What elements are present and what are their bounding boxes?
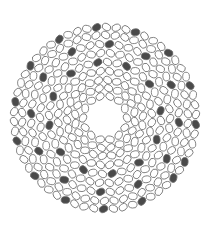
- strand-ellipse: [59, 53, 69, 61]
- strand-ellipse: [53, 108, 63, 119]
- strand-ellipse: [84, 176, 95, 187]
- strand-ellipse: [104, 178, 115, 188]
- strand-ellipse: [17, 107, 27, 118]
- dark-strand-ellipse: [66, 69, 76, 78]
- strand-ellipse: [101, 22, 112, 32]
- strand-ellipse: [114, 185, 125, 196]
- strand-ellipse: [189, 90, 197, 100]
- strand-ellipse: [99, 196, 110, 206]
- strand-ellipse: [148, 37, 158, 45]
- strand-ellipse: [160, 142, 167, 151]
- strand-ellipse: [94, 83, 105, 94]
- dark-strand-ellipse: [59, 176, 69, 184]
- strand-ellipse: [128, 192, 137, 200]
- strand-ellipse: [122, 113, 132, 124]
- strand-ellipse: [95, 135, 105, 143]
- strand-ellipse: [59, 75, 68, 85]
- strand-ellipse: [123, 144, 133, 153]
- strand-ellipse: [179, 137, 190, 148]
- strand-ellipse: [93, 75, 104, 86]
- strand-ellipse: [44, 110, 54, 121]
- strand-ellipse: [80, 194, 90, 202]
- strand-ellipse: [124, 184, 133, 192]
- strand-ellipse: [90, 30, 101, 40]
- strand-ellipse: [63, 188, 72, 195]
- strand-ellipse: [35, 112, 45, 123]
- strand-ellipse: [43, 141, 50, 150]
- dark-strand-ellipse: [29, 171, 40, 181]
- strand-ellipse: [124, 44, 134, 52]
- strand-ellipse: [190, 99, 201, 110]
- strand-ellipse: [77, 184, 87, 192]
- strand-ellipse: [102, 57, 113, 67]
- dark-strand-ellipse: [12, 135, 23, 146]
- strand-ellipse: [81, 33, 91, 41]
- strand-ellipse: [39, 46, 49, 57]
- strand-ellipse: [146, 193, 155, 201]
- strand-ellipse: [121, 104, 128, 113]
- strand-ellipse: [71, 109, 80, 119]
- dark-strand-ellipse: [163, 48, 174, 57]
- dark-strand-ellipse: [191, 119, 201, 130]
- strand-ellipse: [105, 135, 115, 143]
- strand-ellipse: [18, 154, 29, 165]
- strand-ellipse: [118, 194, 129, 205]
- strand-ellipse: [112, 78, 122, 86]
- strand-ellipse: [95, 66, 106, 76]
- strand-ellipse: [124, 175, 133, 182]
- dark-strand-ellipse: [141, 52, 151, 60]
- strand-ellipse: [85, 80, 94, 87]
- strand-ellipse: [112, 59, 122, 68]
- strand-ellipse: [124, 52, 135, 63]
- dark-strand-ellipse: [78, 164, 89, 175]
- strand-ellipse: [95, 48, 106, 58]
- strand-ellipse: [29, 154, 36, 163]
- dark-strand-ellipse: [45, 120, 54, 130]
- strand-ellipse: [37, 178, 46, 189]
- strand-ellipse: [168, 64, 176, 74]
- strand-ellipse: [52, 139, 59, 148]
- dark-strand-ellipse: [104, 39, 115, 49]
- strand-ellipse: [138, 71, 148, 82]
- strand-ellipse: [154, 125, 165, 136]
- dark-strand-ellipse: [136, 196, 147, 207]
- strand-ellipse: [72, 34, 83, 45]
- strand-ellipse: [86, 88, 95, 95]
- strand-ellipse: [65, 124, 73, 134]
- strand-ellipse: [130, 107, 139, 117]
- strand-ellipse: [40, 155, 48, 165]
- strand-ellipse: [100, 30, 111, 40]
- strand-ellipse: [78, 113, 88, 124]
- dark-strand-ellipse: [163, 154, 171, 164]
- strand-ellipse: [86, 50, 96, 59]
- strand-ellipse: [138, 120, 147, 130]
- strand-cross-section-diagram: [0, 0, 209, 231]
- strand-ellipse: [130, 67, 140, 75]
- strand-ellipse: [156, 115, 166, 126]
- strand-ellipse: [56, 100, 64, 110]
- strand-ellipse: [59, 164, 69, 173]
- strand-ellipse: [115, 51, 125, 59]
- strand-ellipse: [111, 23, 121, 32]
- strand-ellipse: [133, 58, 142, 66]
- strand-ellipse: [189, 129, 200, 140]
- strand-ellipse: [182, 99, 191, 109]
- strand-ellipse: [113, 87, 122, 94]
- strand-ellipse: [25, 163, 33, 173]
- strand-ellipse: [128, 201, 138, 209]
- strand-ellipse: [103, 83, 114, 93]
- strand-ellipse: [46, 177, 56, 186]
- strand-ellipse: [148, 157, 157, 167]
- strand-ellipse: [114, 159, 124, 167]
- dark-strand-ellipse: [95, 187, 106, 197]
- strand-ellipse: [179, 89, 190, 100]
- strand-ellipse: [64, 31, 73, 38]
- strand-ellipse: [109, 196, 120, 205]
- strand-ellipse: [27, 98, 38, 109]
- dark-strand-ellipse: [91, 22, 102, 32]
- strand-ellipse: [120, 24, 131, 35]
- strand-ellipse: [18, 126, 29, 137]
- dark-strand-ellipse: [107, 168, 118, 178]
- strand-ellipse: [146, 45, 156, 53]
- strand-ellipse: [108, 204, 119, 213]
